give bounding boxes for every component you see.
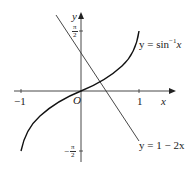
origin-label: O (73, 95, 81, 106)
neg-halfpi-denominator: 2 (70, 152, 76, 159)
line-series (56, 15, 139, 141)
y-axis-arrow-icon (78, 12, 84, 19)
y-tick-label-halfpi: π 2 (72, 24, 78, 39)
curve-label-x: x (177, 38, 182, 50)
y-tick-label-neg-halfpi: π 2 (70, 144, 76, 159)
curve-label: yy = sin−1x (139, 38, 181, 50)
x-axis-label: x (161, 96, 166, 107)
halfpi-denominator: 2 (72, 32, 78, 39)
x-tick-label-pos1: 1 (137, 96, 143, 107)
x-axis-arrow-icon (169, 88, 176, 94)
curve-label-sup: −1 (169, 37, 176, 45)
curve-label-text: y = sin (139, 38, 169, 50)
y-axis-label: y (72, 11, 77, 22)
line-label: y = 1 − 2x (139, 140, 184, 151)
x-tick-label-neg1: −1 (14, 96, 26, 107)
neg-sign: − (64, 147, 69, 156)
